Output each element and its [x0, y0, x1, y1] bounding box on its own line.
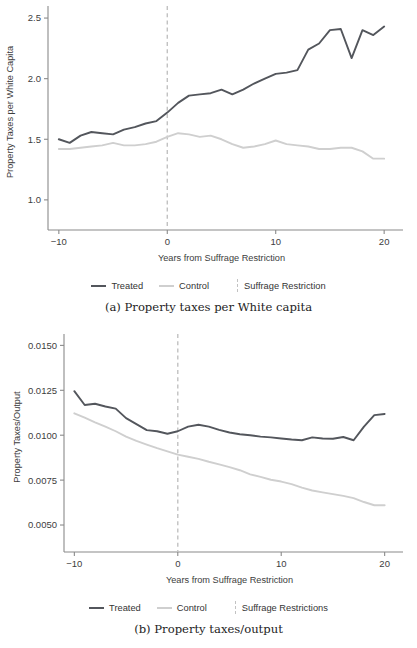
legend-label: Treated — [109, 603, 141, 613]
legend-item-control[interactable]: Control — [159, 281, 209, 291]
series-line-control — [59, 133, 384, 158]
legend-item-treated[interactable]: Treated — [89, 603, 141, 613]
x-tick-label: 20 — [379, 236, 390, 247]
x-axis-title: Years from Suffrage Restriction — [166, 575, 293, 585]
panel-b: 0.00500.00750.01000.01250.0150−1001020Ye… — [0, 322, 417, 648]
y-tick-label: 1.5 — [28, 134, 41, 145]
legend-label: Suffrage Restrictions — [242, 603, 328, 613]
x-tick-label: 10 — [276, 558, 287, 569]
panel-a: 1.01.52.02.5−1001020Years from Suffrage … — [0, 0, 417, 326]
caption-panel-b: (b) Property taxes/output — [0, 622, 417, 636]
line-swatch-icon — [89, 607, 104, 609]
series-line-control — [74, 413, 384, 505]
chart-property-taxes-over-output: 0.00500.00750.01000.01250.0150−1001020Ye… — [0, 322, 417, 594]
legend-panel-a: TreatedControlSuffrage Restriction — [0, 279, 417, 292]
dashed-line-swatch-icon — [237, 279, 238, 292]
legend-label: Suffrage Restriction — [244, 281, 325, 291]
x-tick-label: −10 — [51, 236, 67, 247]
legend-item-control[interactable]: Control — [157, 603, 207, 613]
y-tick-label: 1.0 — [28, 194, 41, 205]
legend-panel-b: TreatedControlSuffrage Restrictions — [0, 601, 417, 614]
line-swatch-icon — [159, 285, 174, 287]
legend-label: Treated — [111, 281, 143, 291]
legend-item-suffrage-restrictions[interactable]: Suffrage Restrictions — [233, 601, 328, 614]
legend-label: Control — [177, 603, 207, 613]
x-tick-label: −10 — [66, 558, 82, 569]
y-tick-label: 2.0 — [28, 73, 41, 84]
y-axis-title: Property Taxes/Output — [12, 391, 22, 483]
y-tick-label: 0.0125 — [28, 385, 57, 396]
legend-item-treated[interactable]: Treated — [91, 281, 143, 291]
y-tick-label: 0.0150 — [28, 340, 57, 351]
y-tick-label: 2.5 — [28, 12, 41, 23]
x-tick-label: 20 — [379, 558, 390, 569]
x-tick-label: 0 — [175, 558, 180, 569]
x-tick-label: 10 — [270, 236, 281, 247]
legend-item-suffrage-restriction[interactable]: Suffrage Restriction — [235, 279, 325, 292]
y-axis-title: Property Taxes per White Capita — [5, 45, 15, 178]
series-line-treated — [59, 27, 384, 143]
legend-label: Control — [179, 281, 209, 291]
line-swatch-icon — [91, 285, 106, 287]
x-tick-label: 0 — [165, 236, 170, 247]
dashed-line-swatch-icon — [235, 601, 236, 614]
x-axis-title: Years from Suffrage Restriction — [158, 253, 285, 263]
line-swatch-icon — [157, 607, 172, 609]
y-tick-label: 0.0075 — [28, 475, 57, 486]
chart-property-taxes-per-white-capita: 1.01.52.02.5−1001020Years from Suffrage … — [0, 0, 417, 270]
figure-container: 1.01.52.02.5−1001020Years from Suffrage … — [0, 0, 417, 648]
y-tick-label: 0.0100 — [28, 430, 57, 441]
y-tick-label: 0.0050 — [28, 519, 57, 530]
caption-panel-a: (a) Property taxes per White capita — [0, 300, 417, 314]
